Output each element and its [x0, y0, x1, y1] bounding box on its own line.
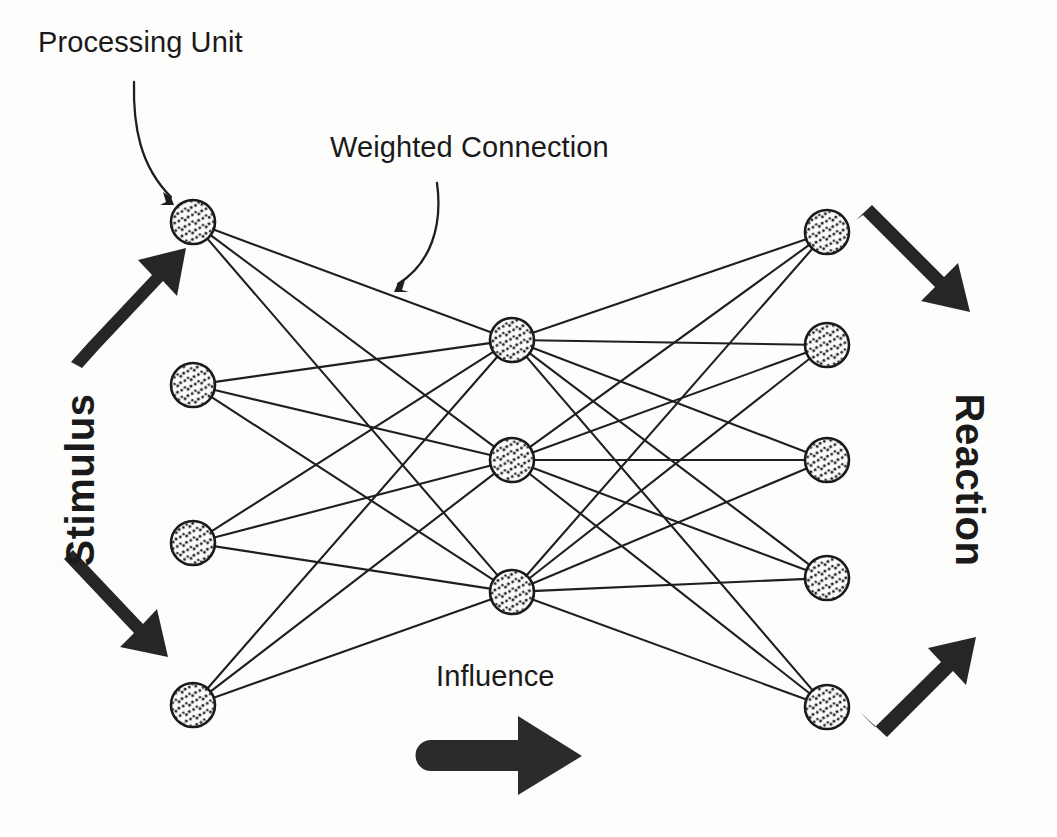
weighted-connection-edge [530, 467, 809, 572]
weighted-connection-edge [527, 357, 812, 581]
reaction-arrow-top-icon [856, 205, 970, 312]
weighted-connection-edge [212, 343, 493, 383]
weighted-connection-edge [531, 579, 808, 591]
stimulus-label: Stimulus [60, 360, 100, 600]
reaction-label: Reaction [950, 360, 990, 600]
weighted-connection-edge [211, 465, 493, 538]
weighted-connection-edge [530, 599, 809, 701]
weighted-connection-edge [530, 238, 809, 334]
weighted-connection-edge [212, 389, 494, 455]
weighted-connection-edge [208, 233, 497, 448]
weighted-connection-edge [531, 340, 808, 344]
weighted-connection-edge [205, 236, 499, 577]
processing-unit-pointer-icon [134, 82, 171, 197]
weighted-connection-edge [525, 246, 815, 577]
weighted-connection-edge [206, 354, 500, 690]
influence-label: Influence [436, 662, 555, 691]
weighted-connection-edge [530, 467, 810, 584]
node-group [171, 200, 849, 729]
weighted-connection-label: Weighted Connection [330, 133, 609, 162]
neural-network-svg [0, 0, 1057, 837]
weighted-connection-edge [527, 472, 812, 696]
weighted-connection-edge [524, 354, 814, 692]
edge-group-input-to-hidden [205, 229, 499, 699]
influence-arrow-icon [415, 716, 582, 795]
stimulus-arrow-top-icon [71, 248, 186, 368]
processing-unit-label: Processing Unit [38, 28, 243, 57]
edge-group-hidden-to-output [524, 238, 814, 700]
weighted-connection-edge [527, 243, 811, 449]
reaction-arrow-bottom-icon [860, 637, 976, 737]
weighted-connection-pointer-icon [398, 183, 438, 284]
diagram-canvas-root: Processing Unit Weighted Connection Infl… [0, 0, 1057, 837]
weighted-connection-edge [211, 229, 494, 334]
